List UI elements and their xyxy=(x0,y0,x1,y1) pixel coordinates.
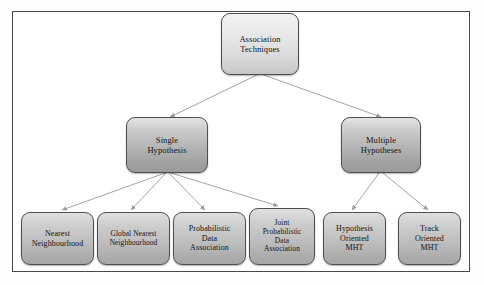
node-label: Hypothesis Oriented MHT xyxy=(333,224,376,252)
node-nearest-neighbourhood[interactable]: Nearest Neighbourhood xyxy=(21,212,94,265)
node-label: Single Hypothesis xyxy=(144,135,189,155)
node-global-nearest-neighbourhood[interactable]: Global Nearest Neighbourhood xyxy=(97,212,170,265)
node-multiple-hypotheses[interactable]: Multiple Hypotheses xyxy=(341,117,421,173)
node-association-techniques[interactable]: Association Techniques xyxy=(221,13,299,75)
node-probabilistic-data-association[interactable]: Probabilistic Data Association xyxy=(173,212,246,265)
node-label: Association Techniques xyxy=(236,34,283,54)
node-label: Global Nearest Neighbourhood xyxy=(107,230,161,247)
node-track-oriented-mht[interactable]: Track Oriented MHT xyxy=(398,212,461,265)
node-label: Nearest Neighbourhood xyxy=(29,229,87,248)
node-joint-probabilistic-data-association[interactable]: Joint Probabilistic Data Association xyxy=(249,208,315,265)
node-label: Joint Probabilistic Data Association xyxy=(260,219,305,254)
node-label: Multiple Hypotheses xyxy=(358,135,405,155)
node-single-hypothesis[interactable]: Single Hypothesis xyxy=(126,117,208,173)
node-label: Probabilistic Data Association xyxy=(186,224,234,252)
node-hypothesis-oriented-mht[interactable]: Hypothesis Oriented MHT xyxy=(323,212,386,265)
diagram-canvas: Association Techniques Single Hypothesis… xyxy=(0,0,484,285)
node-label: Track Oriented MHT xyxy=(412,224,447,252)
